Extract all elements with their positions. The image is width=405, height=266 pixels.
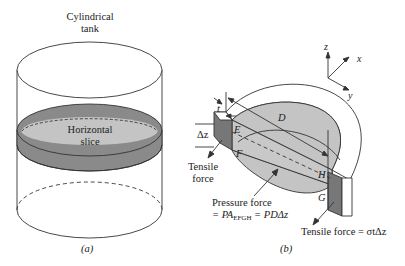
- axis-x-label: x: [357, 53, 361, 65]
- pressure-line2: = PAEFGH = PDΔz: [212, 209, 288, 224]
- caption-b: (b): [280, 243, 292, 255]
- tensile-force-left-label: Tensile force: [185, 161, 221, 185]
- thickness-label: t: [217, 103, 220, 115]
- pressure-force-label: Pressure force = PAEFGH = PDΔz: [212, 197, 288, 224]
- tank-title-line2: tank: [58, 23, 122, 35]
- point-f-label: F: [236, 148, 242, 160]
- tensile-left-line1: Tensile: [185, 161, 221, 173]
- axis-z-label: z: [324, 41, 328, 53]
- pressure-line1: Pressure force: [212, 197, 288, 209]
- slice-label: Horizontal slice: [58, 124, 122, 148]
- tank-title-line1: Cylindrical: [58, 11, 122, 23]
- tank-title: Cylindrical tank: [58, 11, 122, 35]
- coordinate-axes: [326, 52, 349, 90]
- delta-z-label: Δz: [197, 129, 208, 141]
- tensile-force-right-label: Tensile force = σtΔz: [301, 226, 387, 238]
- pressure-eq-suffix: = PDΔz: [251, 209, 288, 220]
- tensile-left-line2: force: [185, 173, 221, 185]
- pressure-eq-prefix: = PA: [212, 209, 233, 220]
- caption-a: (a): [81, 243, 93, 255]
- slice-label-line2: slice: [58, 136, 122, 148]
- diameter-label: D: [278, 112, 286, 124]
- point-g-label: G: [318, 192, 326, 204]
- slice-label-line1: Horizontal: [58, 124, 122, 136]
- point-e-label: E: [234, 124, 240, 136]
- axis-y-label: y: [348, 90, 352, 102]
- pressure-eq-subscript: EFGH: [233, 214, 251, 222]
- point-h-label: H: [318, 169, 326, 181]
